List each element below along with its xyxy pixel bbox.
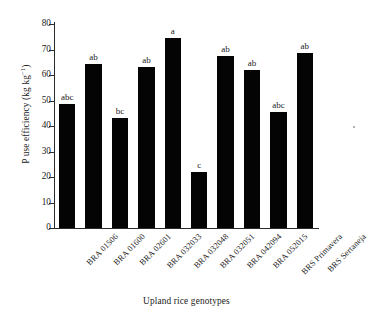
y-axis-tick-label: 80 [42,18,51,29]
y-axis-tick-label: 10 [42,197,51,208]
y-axis-title: P use efficiency (kg kg−1) [19,19,31,209]
bar [244,70,261,228]
y-axis-tick-label: 0 [46,222,51,233]
bar [191,172,208,228]
y-axis-tick-label: 70 [42,44,51,55]
plot-area: 01020304050607080 abcabbcabacabababcab [54,24,318,228]
y-axis-tick-label: 40 [42,120,51,131]
bar [297,53,314,228]
bar [270,112,287,228]
bar-significance-label: ab [232,58,272,68]
bar [138,67,155,228]
bar-significance-label: ab [126,55,166,65]
bar-significance-label: ab [206,44,246,54]
bar [59,104,76,228]
bar-significance-label: abc [258,100,298,110]
x-axis-line [54,228,319,229]
bar-significance-label: abc [47,92,87,102]
bar-significance-label: a [153,26,193,36]
bar [112,118,129,228]
bar [85,64,102,228]
stray-speck-mark [353,126,355,128]
y-axis-title-main: P use efficiency (kg kg [21,75,31,164]
x-axis-title: Upland rice genotypes [54,296,319,306]
bar-significance-label: bc [100,106,140,116]
bar-significance-label: ab [285,41,325,51]
y-axis-title-exponent: −1 [19,68,26,75]
y-axis-tick-label: 30 [42,146,51,157]
bar-chart-figure: P use efficiency (kg kg−1) 0102030405060… [0,0,374,318]
y-axis-tick-label: 20 [42,171,51,182]
bar-significance-label: ab [74,52,114,62]
bar [165,38,182,228]
y-axis-title-tail: ) [21,64,31,67]
y-axis-tick-label: 60 [42,69,51,80]
bar-significance-label: c [179,160,219,170]
bar [217,56,234,228]
